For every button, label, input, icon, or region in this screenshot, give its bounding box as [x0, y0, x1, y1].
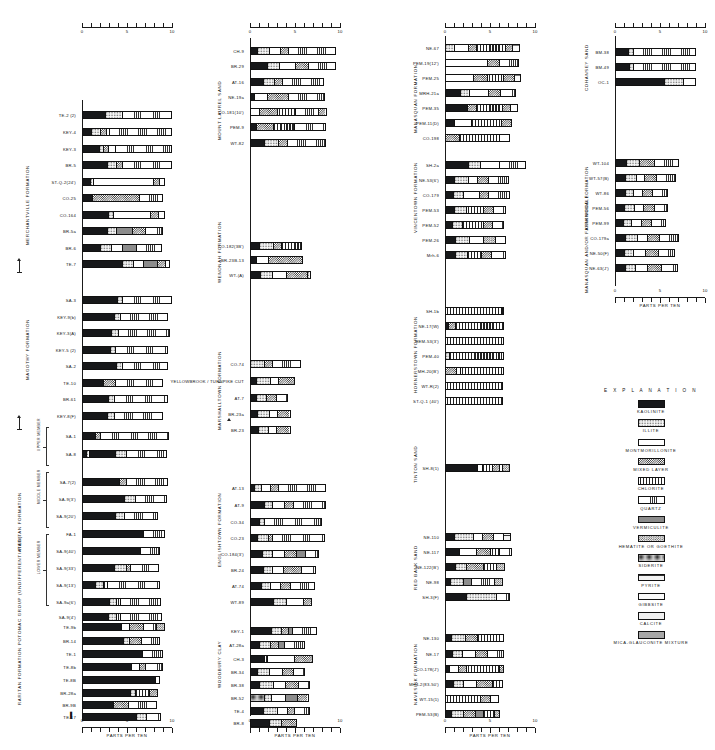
bar-segment-kaolinite: [446, 534, 455, 540]
bar-segment-illite: [461, 90, 470, 96]
bar-segment-mixedlayer: [642, 220, 652, 226]
bar-segment-mixedlayer: [295, 656, 312, 662]
bar-segment-kaolinite: [251, 519, 260, 525]
stacked-bar: [445, 593, 510, 601]
axis-tick: [633, 298, 634, 302]
sample-label: KEY-3(A): [0, 331, 76, 336]
axis-tick: [109, 23, 110, 27]
axis-tick: [463, 23, 464, 27]
bar-segment-illite: [454, 681, 464, 687]
sample-label: NE-117: [0, 550, 439, 555]
bar-segment-kaolinite: [616, 160, 627, 166]
stacked-bar: [445, 695, 499, 703]
axis-tick: [118, 728, 119, 732]
stacked-bar: [82, 450, 167, 458]
axis-tick-label: 0: [614, 288, 617, 293]
sample-label: SA-7(2): [0, 480, 76, 485]
bar-segment-kaolinite: [83, 614, 109, 620]
stacked-bar: [250, 719, 297, 727]
sample-label: WT-89: [0, 600, 244, 605]
sample-label: CO-74: [0, 362, 244, 367]
axis-tick: [163, 23, 164, 27]
sample-label: NE-17(W): [0, 324, 439, 329]
legend-entry: PYRITE: [596, 574, 706, 588]
stacked-bar: [445, 322, 504, 330]
bar-segment-montmorillonite: [455, 120, 472, 126]
bar-segment-chlorite: [491, 549, 500, 555]
bar-segment-illite: [456, 564, 466, 570]
axis-tick: [109, 728, 110, 732]
stacked-bar: [615, 63, 696, 71]
bar-segment-illite: [453, 651, 463, 657]
bar-segment-montmorillonite: [268, 656, 296, 662]
sample-label: MH-20(B'): [0, 369, 439, 374]
member-bracket-tick: [43, 447, 46, 448]
bar-segment-mixedlayer: [643, 190, 653, 196]
bar-segment-kaolinite: [251, 502, 265, 508]
bar-segment-quartz: [659, 250, 675, 256]
bar-segment-quartz: [634, 64, 695, 70]
axis-tick: [678, 298, 679, 302]
bar-segment-kaolinite: [251, 427, 259, 433]
bar-segment-quartz: [500, 135, 509, 141]
bar-segment-chlorite: [478, 635, 502, 641]
axis-tick: [651, 23, 652, 27]
bar-segment-illite: [626, 175, 636, 181]
bar-segment-kaolinite: [251, 656, 265, 662]
stacked-bar: [250, 410, 291, 418]
sample-label: SA-9(20'): [0, 514, 76, 519]
legend-label: SIDERITE: [596, 563, 706, 568]
bar-segment-chlorite: [493, 681, 502, 687]
axis-tick: [535, 23, 536, 28]
bar-segment-quartz: [491, 696, 498, 702]
bar-segment-mixedlayer: [503, 105, 511, 111]
axis-tick: [526, 23, 527, 27]
bar-segment-illite: [260, 642, 271, 648]
axis-tick: [535, 728, 536, 733]
stacked-bar: [615, 48, 696, 56]
bar-segment-kaolinite: [83, 433, 96, 439]
bar-segment-illite: [626, 235, 637, 241]
bar-segment-quartz: [500, 549, 510, 555]
axis-tick: [154, 728, 155, 732]
sample-label: WT-15(1): [0, 697, 439, 702]
sample-label: WT-104: [0, 161, 609, 166]
bar-segment-kaolinite: [616, 265, 626, 271]
bar-segment-chlorite: [477, 105, 503, 111]
bar-segment-kaolinite: [251, 628, 272, 634]
bar-segment-illite: [272, 628, 282, 634]
bar-segment-mixedlayer: [304, 599, 311, 605]
bar-segment-kaolinite: [83, 479, 120, 485]
bar-segment-mixedlayer: [483, 534, 494, 540]
bar-segment-chlorite: [484, 564, 497, 570]
bar-segment-kaolinite: [90, 451, 116, 457]
legend-label: ILLITE: [596, 428, 706, 433]
legend-label: KAOLINITE: [596, 409, 706, 414]
legend-label: MICA-GLAUCONITE MIXTURE: [596, 640, 706, 645]
bar-segment-montmorillonite: [632, 220, 642, 226]
bar-segment-kaolinite: [251, 272, 261, 278]
bar-segment-mixedlayer: [645, 175, 657, 181]
stacked-bar: [615, 204, 668, 212]
stacked-bar: [250, 627, 317, 635]
bar-segment-quartz: [123, 297, 171, 303]
sample-label: NE-98: [0, 580, 439, 585]
sample-label: NE-130: [0, 636, 439, 641]
bar-segment-mixedlayer: [500, 666, 503, 672]
bar-segment-quartz: [494, 534, 504, 540]
sample-label: CH-3: [0, 657, 244, 662]
bar-segment-mixedlayer: [287, 272, 308, 278]
bar-segment-quartz: [121, 314, 168, 320]
bar-segment-quartz: [655, 205, 667, 211]
axis-top: 0510: [615, 22, 705, 36]
sample-label: SH-3(F): [0, 595, 439, 600]
stacked-bar: [250, 360, 301, 368]
axis-top: 0510: [250, 22, 340, 36]
sample-label: WT-57(B): [0, 176, 609, 181]
bar-segment-mixedlayer: [269, 257, 302, 263]
bar-segment-chlorite: [446, 308, 502, 314]
axis-tick: [660, 23, 661, 28]
sample-label: KEY-1: [0, 629, 244, 634]
axis-tick: [651, 298, 652, 302]
bar-segment-montmorillonite: [635, 205, 644, 211]
